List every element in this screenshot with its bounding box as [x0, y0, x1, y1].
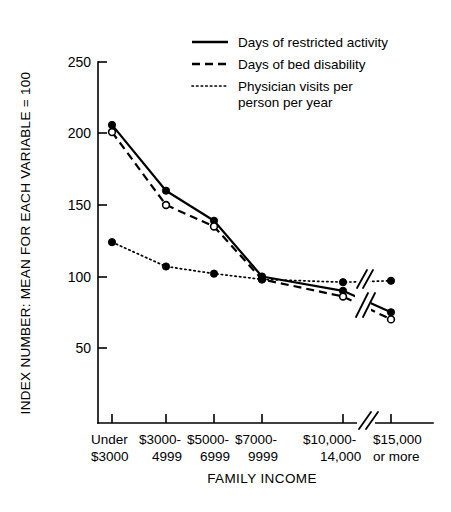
legend-item-physician-visits: Physician visits per person per year [192, 79, 353, 110]
data-point [108, 239, 115, 246]
legend-label-days-restricted-activity: Days of restricted activity [238, 35, 388, 50]
series-1 [108, 121, 394, 316]
series-line-dashed [112, 132, 391, 319]
x-axis-title: FAMILY INCOME [207, 471, 317, 486]
y-tick-label-100: 100 [68, 269, 92, 285]
data-point [340, 293, 347, 300]
x-tick-label-1-line2: 4999 [152, 449, 182, 464]
data-point [109, 129, 116, 136]
x-tick-label-2-line1: $5000- [187, 432, 229, 447]
x-axis: Under $3000 $3000- 4999 $5000- 6999 $700… [91, 412, 433, 486]
data-point [162, 187, 169, 194]
y-axis-title: INDEX NUMBER: MEAN FOR EACH VARIABLE = 1… [18, 72, 33, 415]
legend-label-days-bed-disability: Days of bed disability [238, 57, 366, 72]
y-tick-label-150: 150 [68, 197, 92, 213]
x-axis-break-mark [357, 412, 378, 429]
plot-break-mark-lines [355, 292, 375, 318]
line-chart: Days of restricted activity Days of bed … [0, 0, 451, 512]
x-tick-label-3-line1: $7000- [235, 432, 277, 447]
data-point [387, 277, 394, 284]
x-tick-label-5-line1: $15,000 [373, 432, 422, 447]
data-point [388, 316, 395, 323]
x-tick-label-1-line1: $3000- [139, 432, 181, 447]
y-tick-label-50: 50 [75, 340, 91, 356]
x-tick-label-0-line1: Under [91, 432, 128, 447]
x-tick-label-2-line2: 6999 [200, 449, 230, 464]
series-line-dotted [112, 242, 391, 282]
data-point [163, 202, 170, 209]
data-point [108, 121, 115, 128]
legend-label-physician-visits-line2: person per year [238, 95, 333, 110]
series-line-solid [112, 125, 391, 312]
x-tick-label-4-line2: 14,000 [320, 449, 361, 464]
y-tick-label-250: 250 [68, 54, 92, 70]
y-axis: 250 200 150 100 50 INDEX NUMBER: MEAN FO… [18, 54, 107, 423]
series-3 [108, 239, 394, 286]
plot-break-mark-dotted [357, 270, 373, 288]
legend-item-days-bed-disability: Days of bed disability [192, 57, 366, 72]
data-point [162, 263, 169, 270]
x-tick-label-4-line1: $10,000- [303, 432, 356, 447]
legend-label-physician-visits-line1: Physician visits per [238, 79, 353, 94]
data-point [258, 276, 265, 283]
x-tick-label-0-line2: $3000 [91, 449, 129, 464]
legend: Days of restricted activity Days of bed … [192, 35, 388, 110]
legend-item-days-restricted-activity: Days of restricted activity [192, 35, 388, 50]
x-tick-label-3-line2: 9999 [248, 449, 278, 464]
y-tick-label-200: 200 [68, 125, 92, 141]
x-tick-label-5-line2: or more [373, 449, 420, 464]
data-point [210, 270, 217, 277]
data-point [339, 279, 346, 286]
data-point [387, 309, 394, 316]
data-point [211, 223, 218, 230]
series-layer [108, 121, 394, 322]
figure-container: Days of restricted activity Days of bed … [0, 0, 451, 512]
